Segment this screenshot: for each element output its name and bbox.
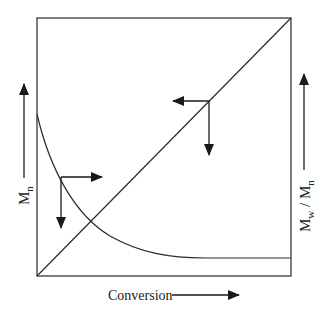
arrow-pair-curve xyxy=(61,177,102,228)
left-axis-label: Mn xyxy=(16,186,35,205)
polydispersity-curve xyxy=(37,114,291,258)
x-axis-label: Conversion xyxy=(108,288,173,303)
arrow-pair-line xyxy=(173,101,209,155)
right-axis-label: Mw / Mn xyxy=(297,180,316,232)
mn-line xyxy=(37,18,291,276)
conversion-diagram: Mn Mw / Mn Conversion xyxy=(0,0,333,312)
